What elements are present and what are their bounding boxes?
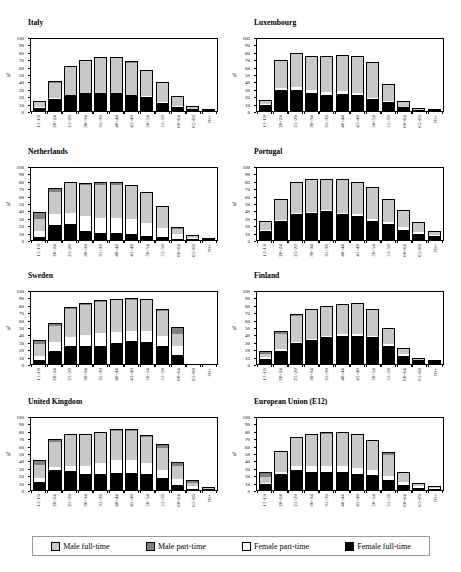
stacked-bar [125, 429, 138, 490]
bar-segment-female-part-time [79, 466, 92, 475]
bar-segment-female-full-time [274, 474, 287, 490]
stacked-bar [140, 435, 153, 490]
x-axis-tick-label: 30-34 [83, 115, 88, 128]
y-axis-tick-label: 60 [12, 194, 24, 199]
y-axis-label: % [6, 201, 10, 207]
bar-segment-male-full-time [366, 188, 379, 218]
y-axis-tick-label: 40 [238, 459, 250, 464]
y-axis-tick-label: 0 [12, 239, 24, 244]
bar-segment-female-full-time [336, 336, 349, 364]
x-axis-tick-mark [428, 241, 443, 243]
bar-segment-male-full-time [125, 186, 138, 219]
y-axis-tick-label: 90 [12, 422, 24, 427]
x-axis-tick-label: 35-39 [324, 115, 329, 128]
y-axis-tick-label: 30 [12, 340, 24, 345]
x-axis-tick-label: 50-54 [371, 244, 376, 257]
chart-panel: United Kingdom%010203040506070809010015-… [6, 397, 222, 525]
x-axis-tick-label: 40-44 [114, 494, 119, 507]
bar-segment-female-full-time [336, 214, 349, 240]
bar-segment-male-full-time [48, 326, 61, 342]
x-axis-tick-label: 55-59 [160, 494, 165, 507]
y-axis-tick-label: 80 [12, 429, 24, 434]
bar-segment-male-full-time [94, 433, 107, 463]
y-axis-tick-label: 40 [12, 80, 24, 85]
bar-segment-female-full-time [412, 488, 425, 490]
stacked-bar [382, 328, 395, 364]
y-axis-tick-label: 40 [238, 80, 250, 85]
bar-segment-male-full-time [397, 211, 410, 227]
bar-segment-male-full-time [171, 97, 184, 106]
y-axis-tick-label: 70 [238, 187, 250, 192]
x-axis-tick-label: 30-34 [309, 368, 314, 381]
stacked-bar [412, 483, 425, 490]
bar-segment-male-full-time [274, 61, 287, 88]
y-axis-tick-label: 80 [238, 303, 250, 308]
bar-segment-male-full-time [290, 316, 303, 342]
stacked-bar [140, 70, 153, 111]
bar-segment-female-full-time [171, 239, 184, 240]
bar-segment-male-full-time [110, 300, 123, 332]
bar-segment-female-full-time [79, 474, 92, 490]
legend-label: Female full-time [357, 542, 411, 551]
y-axis-tick-label: 20 [238, 95, 250, 100]
bar-segment-female-full-time [305, 213, 318, 240]
y-axis-label: % [232, 325, 236, 331]
y-axis-tick-label: 80 [238, 50, 250, 55]
x-axis-tick-label: 65-69 [191, 368, 196, 381]
bar-segment-female-full-time [156, 237, 169, 240]
x-axis-tick-label: 30-34 [309, 244, 314, 257]
bar-segment-female-full-time [140, 236, 153, 240]
stacked-bar [274, 199, 287, 240]
x-axis-tick-label: 25-29 [293, 494, 298, 507]
bar-segment-female-full-time [94, 233, 107, 240]
bar-segment-male-full-time [290, 53, 303, 86]
stacked-bar [382, 84, 395, 111]
y-axis-tick-label: 10 [238, 355, 250, 360]
bar-segment-female-full-time [428, 236, 441, 240]
stacked-bar [156, 206, 169, 240]
bar-group [257, 418, 443, 490]
bar-segment-female-full-time [366, 337, 379, 364]
y-axis-tick-label: 0 [238, 363, 250, 368]
chart-panel: Sweden%010203040506070809010015-1920-242… [6, 271, 222, 399]
x-axis-tick-label: 35-39 [98, 368, 103, 381]
x-axis-tick-label: 35-39 [324, 368, 329, 381]
x-axis-tick-label: 65-69 [417, 244, 422, 257]
x-axis-tick-label: 15-19 [262, 494, 267, 507]
x-axis-labels: 15-1920-2425-2930-3435-3940-4445-4950-54… [256, 115, 444, 141]
bar-segment-female-part-time [64, 213, 77, 224]
chart-panel: Italy%010203040506070809010015-1920-2425… [6, 18, 222, 146]
stacked-bar [64, 66, 77, 111]
plot-frame [30, 38, 218, 112]
y-axis-tick-label: 100 [12, 36, 24, 41]
y-axis-tick-label: 100 [238, 415, 250, 420]
x-axis-tick-label: 20-24 [52, 115, 57, 128]
stacked-bar [382, 199, 395, 240]
bar-segment-male-full-time [290, 183, 303, 213]
y-axis-tick-label: 50 [12, 73, 24, 78]
x-axis-tick-label: 30-34 [309, 115, 314, 128]
stacked-bar [33, 101, 46, 111]
bar-segment-male-full-time [140, 193, 153, 223]
stacked-bar [397, 210, 410, 240]
bar-group [31, 418, 217, 490]
chart-title: Finland [254, 271, 448, 280]
bar-segment-female-full-time [140, 342, 153, 364]
y-axis-tick-label: 10 [12, 231, 24, 236]
bar-segment-female-full-time [259, 484, 272, 490]
bar-segment-female-full-time [305, 340, 318, 364]
figure-root: Italy%010203040506070809010015-1920-2425… [0, 0, 461, 572]
bar-segment-female-part-time [48, 342, 61, 352]
bar-segment-male-full-time [351, 435, 364, 468]
stacked-bar [48, 188, 61, 240]
y-axis-tick-label: 40 [238, 209, 250, 214]
x-axis-tick-label: 25-29 [67, 244, 72, 257]
x-axis-tick-label: 15-19 [36, 115, 41, 128]
bar-segment-female-full-time [397, 230, 410, 240]
y-axis-tick-label: 40 [12, 333, 24, 338]
y-axis-tick-label: 20 [238, 474, 250, 479]
y-axis-tick-label: 60 [238, 318, 250, 323]
bar-segment-female-full-time [382, 102, 395, 111]
legend-label: Male part-time [158, 542, 206, 551]
stacked-bar [259, 351, 272, 364]
